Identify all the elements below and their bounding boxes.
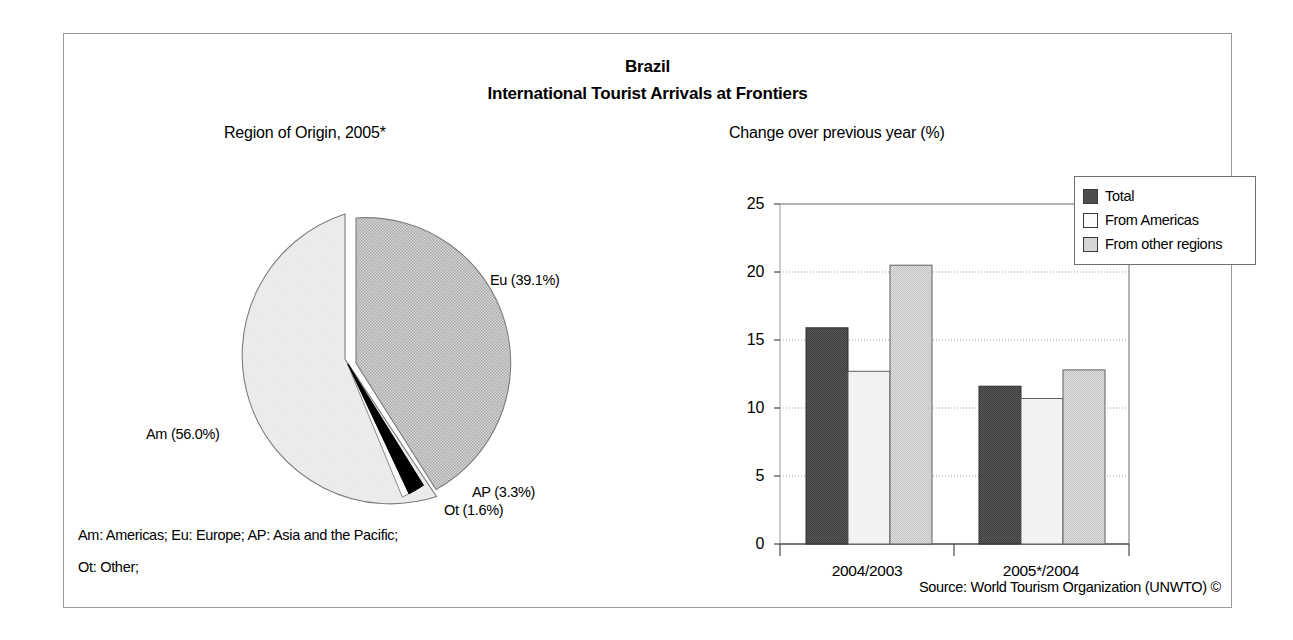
pie-label-ot: Ot (1.6%) [444,502,503,518]
legend-item-from-other-regions: From other regions [1083,232,1247,256]
pie-chart-title: Region of Origin, 2005* [224,124,386,142]
pie-chart-svg [64,144,624,544]
bar-y-ticks [774,204,780,544]
bar-chart-legend: Total From Americas From other regions [1074,176,1256,265]
figure-subtitle: International Tourist Arrivals at Fronti… [64,84,1231,104]
pie-label-ap: AP (3.3%) [472,484,535,500]
bar-americas-2004 [848,371,890,544]
legend-swatch-from-americas [1083,213,1098,228]
bar-other-2004 [890,265,932,544]
legend-item-total: Total [1083,184,1247,208]
chart-frame: Brazil International Tourist Arrivals at… [63,33,1232,608]
x-tick-2004-2003: 2004/2003 [787,562,947,580]
legend-swatch-from-other-regions [1083,237,1098,252]
figure-title: Brazil [64,57,1231,77]
y-tick-10: 10 [724,399,764,417]
bar-chart-title: Change over previous year (%) [729,124,945,142]
y-tick-20: 20 [724,263,764,281]
legend-item-from-americas: From Americas [1083,208,1247,232]
footnote-abbreviations-line-1: Am: Americas; Eu: Europe; AP: Asia and t… [78,527,398,543]
bar-americas-2005 [1021,399,1063,545]
bar-chart: 25 20 15 10 5 0 2004/2003 2005*/2004 Tot… [654,144,1229,574]
y-tick-15: 15 [724,331,764,349]
legend-label-from-other-regions: From other regions [1105,236,1222,252]
pie-label-am: Am (56.0%) [146,426,220,442]
y-tick-5: 5 [724,467,764,485]
y-tick-0: 0 [724,535,764,553]
bar-other-2005 [1063,370,1105,544]
y-tick-25: 25 [724,195,764,213]
pie-label-eu: Eu (39.1%) [490,272,560,288]
pie-chart: Eu (39.1%) Am (56.0%) AP (3.3%) Ot (1.6%… [64,144,624,544]
bar-total-2004 [806,328,848,544]
legend-label-from-americas: From Americas [1105,212,1199,228]
bar-x-axis [780,544,1129,556]
legend-swatch-total [1083,189,1098,204]
bar-total-2005 [979,386,1021,544]
x-tick-2005-2004: 2005*/2004 [961,562,1121,580]
legend-label-total: Total [1105,188,1134,204]
source-note: Source: World Tourism Organization (UNWT… [919,579,1221,595]
footnote-abbreviations-line-2: Ot: Other; [78,559,139,575]
